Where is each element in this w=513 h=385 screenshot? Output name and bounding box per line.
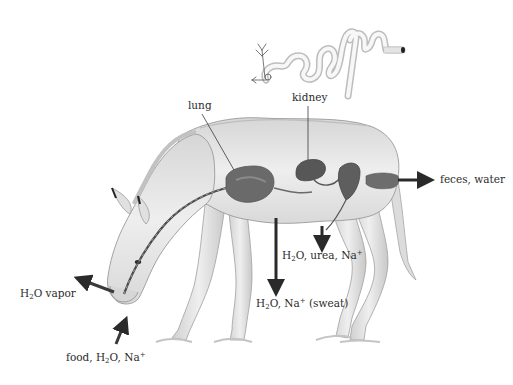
donkey-illustration (0, 0, 513, 385)
label-intake: food, H2O, Na+ (66, 352, 146, 365)
label-kidney: kidney (292, 92, 327, 103)
label-lung: lung (188, 100, 212, 111)
intake-arrow (116, 324, 124, 344)
label-urine: H2O, urea, Na+ (282, 250, 363, 263)
diagram-stage: kidney lung feces, water H2O, urea, Na+ … (0, 0, 513, 385)
label-feces-water: feces, water (440, 174, 505, 185)
label-vapor: H2O vapor (20, 288, 76, 301)
nephron-diagram (252, 32, 405, 96)
label-sweat: H2O, Na+ (sweat) (256, 298, 348, 311)
intestine-organ (366, 173, 399, 189)
